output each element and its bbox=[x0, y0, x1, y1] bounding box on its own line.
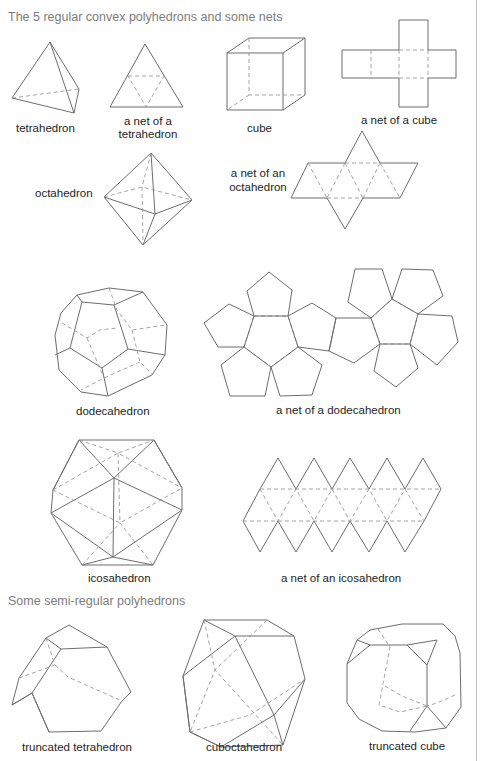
label-tetrahedron-net-line1: a net of a bbox=[118, 115, 178, 128]
label-cuboctahedron: cuboctahedron bbox=[206, 741, 282, 754]
icosahedron-drawing bbox=[51, 440, 182, 565]
truncated-tetrahedron-drawing bbox=[12, 625, 131, 732]
label-truncated-tetrahedron: truncated tetrahedron bbox=[22, 741, 132, 754]
label-tetrahedron-net-line2: tetrahedron bbox=[114, 128, 182, 141]
label-dodecahedron: dodecahedron bbox=[76, 405, 150, 418]
octahedron-net-drawing bbox=[291, 131, 418, 229]
truncated-cube-drawing bbox=[347, 624, 461, 732]
tetrahedron-net-drawing bbox=[110, 44, 183, 107]
label-octahedron: octahedron bbox=[35, 187, 93, 200]
label-cube-net: a net of a cube bbox=[361, 114, 437, 127]
label-octahedron-net-line1: a net of an bbox=[230, 167, 286, 180]
cube-net-drawing bbox=[342, 20, 456, 107]
label-tetrahedron: tetrahedron bbox=[16, 122, 75, 135]
label-icosahedron-net: a net of an icosahedron bbox=[281, 572, 401, 585]
label-cube: cube bbox=[247, 122, 272, 135]
cuboctahedron-drawing bbox=[183, 620, 305, 747]
label-truncated-cube: truncated cube bbox=[369, 740, 445, 753]
octahedron-drawing bbox=[104, 153, 192, 245]
icosahedron-net-drawing bbox=[243, 458, 441, 552]
dodecahedron-net-drawing bbox=[204, 269, 458, 396]
label-dodecahedron-net: a net of a dodecahedron bbox=[276, 404, 401, 417]
cube-drawing bbox=[227, 38, 305, 110]
dodecahedron-drawing bbox=[55, 288, 167, 396]
label-icosahedron: icosahedron bbox=[88, 572, 151, 585]
label-octahedron-net-line2: octahedron bbox=[229, 181, 287, 194]
tetrahedron-drawing bbox=[12, 42, 79, 113]
